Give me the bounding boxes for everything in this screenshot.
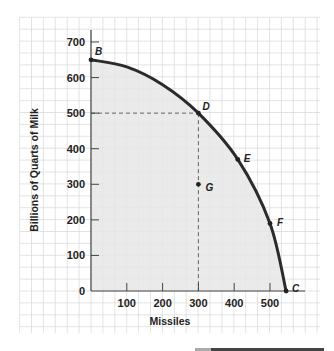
x-axis-title: Missiles bbox=[150, 315, 191, 327]
x-tick-label: 500 bbox=[261, 297, 279, 309]
y-tick-label: 0 bbox=[79, 285, 85, 297]
y-tick-label: 700 bbox=[67, 36, 85, 48]
point-g-marker bbox=[196, 182, 201, 187]
x-tick-label: 100 bbox=[118, 297, 136, 309]
y-tick-label: 600 bbox=[67, 72, 85, 84]
point-f-label: F bbox=[277, 217, 284, 228]
point-e-label: E bbox=[244, 153, 251, 164]
point-d-marker bbox=[196, 111, 201, 116]
point-b-marker bbox=[89, 57, 94, 62]
x-tick-label: 200 bbox=[153, 297, 171, 309]
point-f-marker bbox=[268, 221, 273, 226]
point-b-label: B bbox=[95, 46, 102, 57]
point-g-label: G bbox=[205, 182, 213, 193]
attainable-region-shading bbox=[91, 60, 286, 291]
y-axis-title: Billions of Quarts of Milk bbox=[28, 108, 40, 232]
point-e-marker bbox=[235, 157, 240, 162]
y-tick-label: 200 bbox=[67, 214, 85, 226]
point-c-marker bbox=[284, 289, 289, 294]
y-tick-label: 500 bbox=[67, 107, 85, 119]
point-c-label: C bbox=[292, 283, 300, 294]
y-tick-label: 400 bbox=[67, 143, 85, 155]
x-tick-label: 400 bbox=[225, 297, 243, 309]
x-tick-label: 300 bbox=[189, 297, 207, 309]
y-tick-label: 100 bbox=[67, 249, 85, 261]
y-tick-label: 300 bbox=[67, 178, 85, 190]
point-d-label: D bbox=[202, 101, 209, 112]
ppf-chart: 0100200300400500600700 100200300400500 B… bbox=[0, 0, 334, 351]
